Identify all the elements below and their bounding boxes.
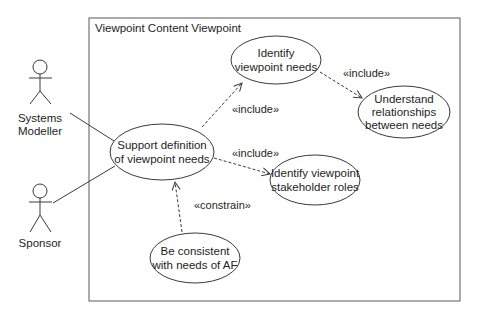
use-case-label-line: between needs bbox=[365, 119, 443, 131]
use-case-label-line: of viewpoint needs bbox=[114, 153, 210, 165]
use-case-identify-needs[interactable]: Identify viewpoint needs bbox=[231, 36, 321, 84]
stereotype-label: «constrain» bbox=[194, 199, 251, 211]
use-case-label-line: Understand bbox=[374, 93, 433, 105]
include-dependency bbox=[214, 158, 270, 174]
stick-figure-icon bbox=[29, 60, 52, 104]
use-case-label-line: relationships bbox=[372, 106, 437, 118]
actor-label-line: Systems bbox=[18, 112, 62, 124]
use-case-label-line: Be consistent bbox=[160, 245, 230, 257]
system-boundary-title: Viewpoint Content Viewpoint bbox=[95, 22, 242, 34]
actor-label-line: Modeller bbox=[18, 125, 62, 137]
stereotype-label: «include» bbox=[232, 103, 279, 115]
use-case-identify-stakeholder-roles[interactable]: Identify viewpoint stakeholder roles bbox=[270, 155, 360, 205]
use-case-be-consistent[interactable]: Be consistent with needs of AF bbox=[150, 233, 240, 283]
use-case-label-line: with needs of AF bbox=[151, 259, 237, 271]
use-case-label-line: Identify viewpoint bbox=[271, 167, 360, 179]
association-line bbox=[70, 113, 114, 141]
constrain-dependency bbox=[175, 182, 182, 232]
actor-label-line: Sponsor bbox=[19, 237, 62, 249]
stick-figure-icon bbox=[29, 184, 52, 232]
use-case-support-definition[interactable]: Support definition of viewpoint needs bbox=[110, 124, 214, 180]
use-case-label-line: stakeholder roles bbox=[271, 181, 359, 193]
use-case-label-line: Identify bbox=[257, 47, 294, 59]
actor-sponsor[interactable]: Sponsor bbox=[19, 184, 62, 249]
use-case-label-line: viewpoint needs bbox=[235, 61, 318, 73]
stereotype-label: «include» bbox=[343, 67, 390, 79]
use-case-diagram: Viewpoint Content Viewpoint Systems Mode… bbox=[0, 0, 478, 315]
association-line bbox=[53, 166, 115, 203]
use-case-understand-relationships[interactable]: Understand relationships between needs bbox=[358, 86, 450, 138]
stereotype-label: «include» bbox=[232, 147, 279, 159]
actor-systems-modeller[interactable]: Systems Modeller bbox=[18, 60, 62, 137]
use-case-label-line: Support definition bbox=[117, 139, 207, 151]
